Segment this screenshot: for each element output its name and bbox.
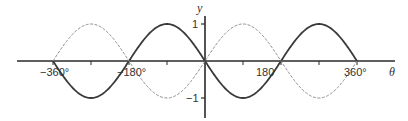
x-tick-label-180: 180 [256,67,274,78]
y-axis-label: y [197,2,202,14]
y-tick-label-neg1: −1 [186,93,199,104]
y-tick-label-1: 1 [192,19,198,30]
x-tick-label-360: 360° [344,67,367,78]
x-tick-label-neg360: −360° [40,67,69,78]
x-axis-label: θ [389,66,395,78]
x-tick-label-neg180: −180° [117,67,146,78]
sine-plot [0,0,408,121]
